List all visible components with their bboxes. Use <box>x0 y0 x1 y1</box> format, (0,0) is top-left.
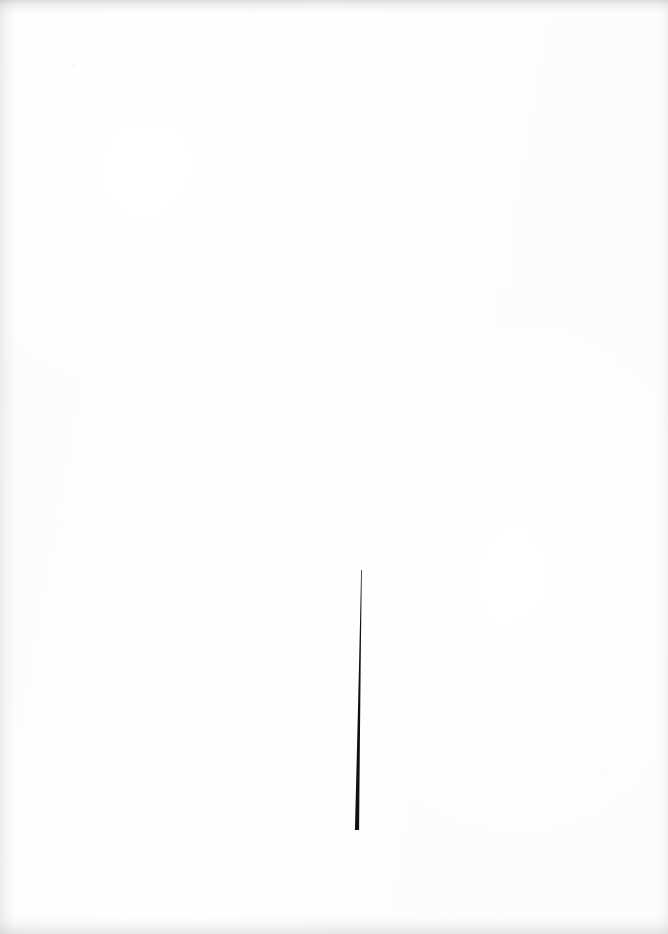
tapered-vertical-stroke-path <box>355 570 362 830</box>
scanned-page-canvas <box>0 0 668 934</box>
ink-stroke-layer <box>0 0 668 934</box>
tapered-vertical-stroke-svg <box>0 0 668 934</box>
